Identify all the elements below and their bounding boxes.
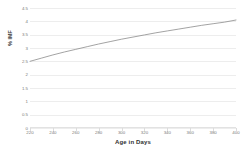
y-axis-tick-label: 0.5 [14, 111, 28, 118]
x-axis-tick-label: 220 [19, 128, 41, 137]
x-axis-tick-label: 260 [65, 128, 87, 137]
y-axis-tick-label: 4 [14, 18, 28, 25]
x-axis-tick-label: 400 [225, 128, 243, 137]
x-axis-tick-label: 360 [179, 128, 201, 137]
x-axis-tick-labels: 220240260280300320340360380400 [30, 128, 236, 137]
y-axis-tick-label: 3.5 [14, 31, 28, 38]
y-axis-tick-label: 2.5 [14, 58, 28, 65]
y-axis-tick-label: 4.5 [14, 5, 28, 12]
y-axis-tick-label: 1 [14, 98, 28, 105]
series-line-imf [30, 8, 236, 128]
x-axis-tick-label: 320 [133, 128, 155, 137]
x-axis-title: Age in Days [30, 139, 236, 145]
plot-area [30, 8, 236, 128]
y-axis-tick-label: 2 [14, 71, 28, 78]
x-axis-tick-label: 380 [202, 128, 224, 137]
y-axis-tick-label: 1.5 [14, 85, 28, 92]
y-axis-tick-label: 3 [14, 45, 28, 52]
x-axis-tick-label: 240 [42, 128, 64, 137]
y-axis-tick-labels: 00.511.522.533.544.5 [14, 8, 28, 128]
x-axis-tick-label: 280 [88, 128, 110, 137]
imf-vs-age-line-chart: % IMF 00.511.522.533.544.5 2202402602803… [0, 0, 243, 153]
x-axis-tick-label: 300 [111, 128, 133, 137]
x-axis-tick-label: 340 [156, 128, 178, 137]
